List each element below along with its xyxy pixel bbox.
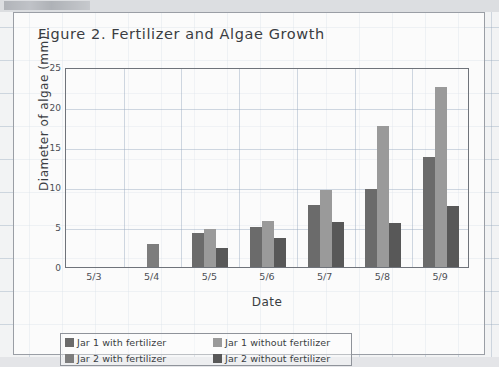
y-axis-tick-label: 25	[50, 63, 61, 73]
bar	[377, 126, 389, 267]
bar-group	[124, 69, 182, 267]
legend-swatch-icon	[65, 354, 74, 363]
bar	[147, 244, 159, 267]
y-axis-tick-label: 20	[50, 103, 61, 113]
x-axis-tick-label: 5/5	[202, 271, 217, 282]
bar-group	[297, 69, 355, 267]
bar	[389, 223, 401, 267]
legend-swatch-icon	[213, 338, 222, 347]
bar	[332, 222, 344, 267]
legend-item: Jar 2 without fertilizer	[209, 353, 353, 364]
legend-label: Jar 2 without fertilizer	[225, 353, 330, 364]
bar	[423, 157, 435, 267]
x-axis-label: Date	[65, 295, 469, 309]
x-axis-tick-label: 5/9	[432, 271, 447, 282]
y-axis-label: Diameter of algae (mm)	[37, 13, 51, 213]
x-axis-tick-label: 5/7	[317, 271, 332, 282]
y-axis-tick-label: 0	[55, 263, 61, 273]
legend-item: Jar 2 with fertilizer	[61, 353, 209, 364]
bar-group	[412, 69, 470, 267]
bar	[435, 87, 447, 267]
bar	[250, 227, 262, 267]
legend-label: Jar 1 without fertilizer	[225, 337, 330, 348]
bar	[204, 229, 216, 267]
bar	[216, 248, 228, 267]
bar	[192, 233, 204, 267]
x-axis-tick-label: 5/3	[86, 271, 101, 282]
legend-label: Jar 1 with fertilizer	[77, 337, 166, 348]
bar	[308, 205, 320, 267]
chart-legend: Jar 1 with fertilizerJar 1 without ferti…	[60, 333, 352, 366]
y-axis-tick-label: 10	[50, 183, 61, 193]
bar-group	[239, 69, 297, 267]
x-axis-tick-label: 5/6	[259, 271, 274, 282]
x-axis-tick-label: 5/8	[375, 271, 390, 282]
bar	[274, 238, 286, 267]
y-axis-tick-label: 15	[50, 143, 61, 153]
bar	[447, 206, 459, 267]
y-axis-tick-label: 5	[55, 223, 61, 233]
chart-title: Figure 2. Fertilizer and Algae Growth	[38, 26, 325, 42]
x-axis-tick-label: 5/4	[144, 271, 159, 282]
bar	[320, 190, 332, 267]
chart-card: Figure 2. Fertilizer and Algae Growth 05…	[13, 12, 485, 355]
bar-group	[355, 69, 413, 267]
x-axis-ticks: 5/35/45/55/65/75/85/9	[65, 271, 469, 287]
legend-item: Jar 1 with fertilizer	[61, 337, 209, 348]
bar-group	[66, 69, 124, 267]
bar-group	[181, 69, 239, 267]
bar	[365, 189, 377, 267]
scan-top-edge	[0, 0, 499, 12]
legend-item: Jar 1 without fertilizer	[209, 337, 353, 348]
bar-series-container	[66, 69, 468, 267]
plot-area	[65, 68, 469, 268]
legend-swatch-icon	[213, 354, 222, 363]
bar	[262, 221, 274, 267]
legend-label: Jar 2 with fertilizer	[77, 353, 166, 364]
scan-artifact	[4, 1, 90, 10]
legend-swatch-icon	[65, 338, 74, 347]
